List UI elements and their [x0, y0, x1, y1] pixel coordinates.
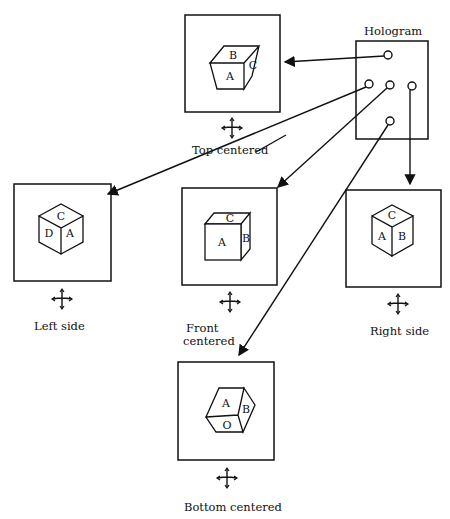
svg-text:O: O [222, 419, 231, 432]
view-front: C A B [182, 188, 277, 312]
bottom-centered-label: Bottom centered [184, 501, 282, 514]
view-right: C A B [346, 190, 441, 314]
hologram-plate [356, 41, 428, 139]
svg-text:C: C [388, 209, 396, 222]
view-left: C D A [14, 184, 111, 309]
hologram-diagram: B A C C D A C A B C A B A B O [0, 0, 450, 519]
svg-text:A: A [221, 397, 231, 410]
svg-text:B: B [242, 232, 250, 245]
svg-text:C: C [249, 59, 257, 72]
view-bottom: A B O [178, 362, 274, 488]
svg-text:B: B [242, 403, 250, 416]
svg-text:A: A [217, 236, 227, 249]
top-centered-label: Top centered [192, 144, 268, 157]
svg-text:C: C [57, 210, 65, 223]
svg-text:A: A [377, 230, 387, 243]
svg-text:A: A [225, 70, 235, 83]
view-top: B A C [185, 15, 280, 138]
projection-arrows [108, 56, 410, 355]
svg-text:D: D [45, 227, 54, 240]
front-centered-label-line2: centered [183, 335, 235, 348]
hologram-label: Hologram [364, 25, 422, 38]
right-side-label: Right side [370, 325, 429, 338]
svg-text:C: C [226, 212, 234, 225]
svg-text:B: B [229, 49, 237, 62]
svg-text:B: B [398, 230, 406, 243]
svg-text:A: A [65, 227, 75, 240]
left-side-label: Left side [34, 320, 85, 333]
